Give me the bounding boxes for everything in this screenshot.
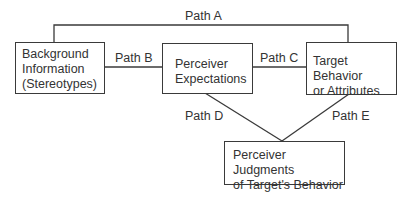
path-b-label: Path B xyxy=(115,51,153,65)
node-line: Perceiver xyxy=(175,57,252,72)
path-d-label: Path D xyxy=(185,109,223,123)
node-line: or Attributes xyxy=(313,84,396,99)
path-a-label: Path A xyxy=(185,9,222,23)
background-information-box: Background Information (Stereotypes) xyxy=(15,42,105,94)
node-line: Information xyxy=(22,62,104,77)
perceiver-judgments-box: Perceiver Judgments of Target's Behavior xyxy=(224,141,345,185)
path-e-label: Path E xyxy=(332,109,370,123)
path-c-label: Path C xyxy=(260,51,298,65)
node-line: of Target's Behavior xyxy=(233,178,344,193)
node-line: Perceiver Judgments xyxy=(233,148,344,178)
node-line: Target Behavior xyxy=(313,54,396,84)
node-line: Expectations xyxy=(175,72,252,87)
node-line: Background xyxy=(22,47,104,62)
node-line: (Stereotypes) xyxy=(22,77,104,92)
path-a-line xyxy=(54,25,348,42)
target-behavior-box: Target Behavior or Attributes xyxy=(306,42,397,95)
perceiver-expectations-box: Perceiver Expectations xyxy=(162,43,253,94)
